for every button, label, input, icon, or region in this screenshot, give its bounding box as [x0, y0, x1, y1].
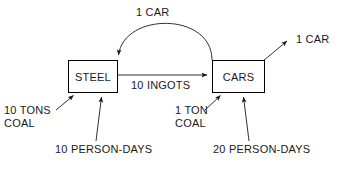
node-steel-label: STEEL: [75, 71, 111, 83]
edge-label-person-days-steel: 10 PERSON-DAYS: [55, 143, 152, 156]
edge-person-days-into-steel: [96, 97, 102, 141]
edge-coal-into-steel: [56, 96, 74, 111]
edge-label-output-car: 1 CAR: [296, 33, 329, 46]
edge-feedback-car-arc: [119, 23, 213, 60]
edge-label-coal-steel: 10 TONS COAL: [4, 104, 51, 130]
edge-label-feedback-car: 1 CAR: [136, 6, 169, 19]
edge-label-coal-cars: 1 TON COAL: [175, 104, 208, 130]
edge-output-car: [263, 41, 287, 61]
production-flow-diagram: STEEL CARS 1 CAR 10 INGOTS 1 CAR 10 TONS…: [0, 0, 350, 170]
edge-person-days-into-cars: [244, 97, 250, 141]
edge-label-ingots: 10 INGOTS: [129, 79, 192, 92]
node-cars[interactable]: CARS: [212, 60, 265, 93]
node-cars-label: CARS: [223, 71, 254, 83]
edge-label-person-days-cars: 20 PERSON-DAYS: [213, 143, 310, 156]
node-steel[interactable]: STEEL: [68, 60, 118, 93]
